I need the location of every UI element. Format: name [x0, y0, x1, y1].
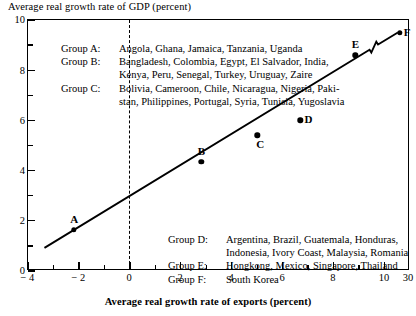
data-point-label-D: D — [304, 113, 312, 125]
legend-entry-value-continued: stan, Philippines, Portugal, Syria, Tuni… — [61, 95, 344, 108]
y-tick-8: 8 — [28, 70, 35, 71]
legend-entry-key: Group B: — [61, 55, 114, 68]
y-axis-title: Average real growth rate of GDP (percent… — [8, 1, 191, 12]
x-tick-label--4: − 4 — [20, 272, 34, 283]
legend-entry-key: Group A: — [61, 42, 114, 55]
data-point-label-F: F — [404, 26, 411, 38]
legend-entry-value: Bangladesh, Colombia, Egypt, El Salvador… — [119, 55, 329, 68]
x-axis-title: Average real growth rate of exports (per… — [0, 296, 416, 307]
legend-entry-key: Group D: — [168, 233, 221, 246]
data-point-label-A: A — [70, 213, 78, 225]
y-tick-label-4: 4 — [20, 164, 25, 175]
x-tick--1 — [104, 265, 105, 270]
plot-area: 0246810− 4− 2024681030 ABCDEF Group A:An… — [27, 19, 409, 270]
legend-entry-value-continued: Kenya, Peru, Senegal, Turkey, Uruguay, Z… — [61, 68, 344, 81]
y-tick-label-8: 8 — [20, 64, 25, 75]
y-tick-2: 2 — [28, 220, 35, 221]
legend-entry-row: Group E:Hongkong, Mexico, Singapore, Tha… — [168, 259, 408, 272]
y-tick-4: 4 — [28, 170, 35, 171]
legend-entry-value: South Korea — [226, 273, 279, 286]
y-tick-6: 6 — [28, 120, 35, 121]
legend-entry-value: Hongkong, Mexico, Singapore, Thailand — [226, 259, 398, 272]
x-tick-0: 0 — [129, 262, 130, 269]
y-tick-3 — [28, 195, 33, 196]
y-tick-7 — [28, 95, 33, 96]
x-tick--2: − 2 — [78, 262, 79, 269]
chart-figure: Average real growth rate of GDP (percent… — [0, 0, 416, 316]
legend-entry-key: Group E: — [168, 259, 221, 272]
y-tick-label-10: 10 — [15, 14, 26, 25]
y-tick-label-6: 6 — [20, 114, 25, 125]
legend-groups-def: Group D:Argentina, Brazil, Guatemala, Ho… — [168, 233, 408, 286]
x-tick--3 — [53, 265, 54, 270]
legend-entry-value: Argentina, Brazil, Guatemala, Honduras, — [226, 233, 398, 246]
legend-entry-key: Group F: — [168, 273, 221, 286]
legend-entry-value: Angola, Ghana, Jamaica, Tanzania, Uganda — [119, 42, 302, 55]
x-tick--4: − 4 — [27, 262, 28, 269]
legend-entry-row: Group D:Argentina, Brazil, Guatemala, Ho… — [168, 233, 408, 246]
legend-entry-key: Group C: — [61, 82, 114, 95]
legend-groups-abc: Group A:Angola, Ghana, Jamaica, Tanzania… — [61, 42, 344, 108]
legend-entry-row: Group B:Bangladesh, Colombia, Egypt, El … — [61, 55, 344, 68]
legend-entry-row: Group C:Bolivia, Cameroon, Chile, Nicara… — [61, 82, 344, 95]
x-tick-1 — [155, 265, 156, 270]
y-tick-10: 10 — [28, 19, 35, 20]
y-tick-9 — [28, 44, 33, 45]
x-tick-label-0: 0 — [127, 272, 132, 283]
legend-entry-value: Bolivia, Cameroon, Chile, Nicaragua, Nig… — [119, 82, 339, 95]
y-tick-1 — [28, 245, 33, 246]
y-tick-5 — [28, 145, 33, 146]
legend-entry-row: Group F:South Korea — [168, 273, 408, 286]
legend-entry-value-continued: Indonesia, Ivory Coast, Malaysia, Romani… — [168, 246, 408, 259]
data-point-label-B: B — [198, 145, 205, 157]
data-point-label-E: E — [352, 38, 359, 50]
data-point-label-C: C — [256, 138, 264, 150]
x-tick-label--2: − 2 — [71, 272, 85, 283]
legend-entry-row: Group A:Angola, Ghana, Jamaica, Tanzania… — [61, 42, 344, 55]
y-tick-label-2: 2 — [20, 215, 25, 226]
